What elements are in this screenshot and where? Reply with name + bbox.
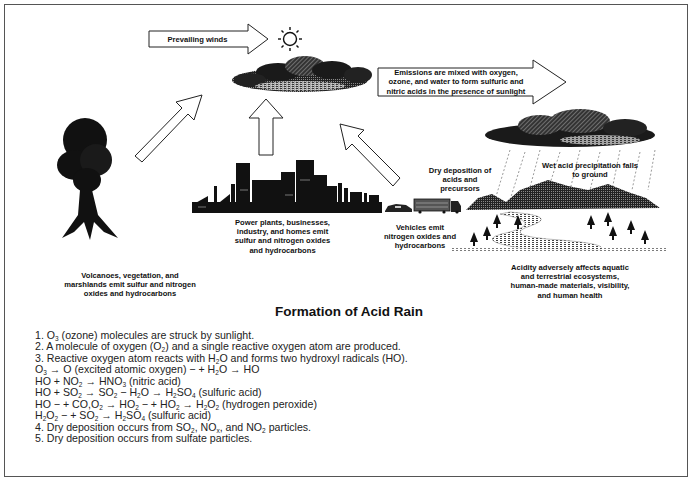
rain-cloud-icon [485, 109, 655, 147]
city-skyline-icon [192, 160, 382, 213]
prevailing-winds-label: Prevailing winds [150, 35, 245, 44]
step-text: O [46, 409, 54, 421]
step-text: → H [180, 398, 204, 410]
power-plants-label: Power plants, businesses, industry, and … [215, 218, 350, 255]
step-text: H [35, 409, 43, 421]
step-text: (sulfuric acid) [196, 386, 262, 398]
step-text: − H [117, 386, 137, 398]
vehicles-label: Vehicles emit nitrogen oxides and hydroc… [375, 223, 465, 251]
step-text: → HNO [82, 375, 122, 387]
step-text: 5. Dry deposition occurs from sulfate pa… [35, 432, 252, 444]
acidity-effects-label: Acidity adversely affects aquatic and te… [485, 263, 655, 300]
step-text: → HO [103, 398, 135, 410]
step-text: (sulfuric acid) [145, 409, 211, 421]
step-text: HO − + CO,O [35, 398, 99, 410]
step-text: O → HO [219, 363, 260, 375]
reaction-steps-list: 1. O3 (ozone) molecules are struck by su… [35, 330, 408, 445]
step-text: O [207, 398, 215, 410]
car-icon [385, 204, 412, 212]
emissions-mixed-label: Emissions are mixed with oxygen, ozone, … [380, 68, 532, 96]
volcano-up-arrow [135, 95, 202, 162]
step-text: (hydrogen peroxide) [219, 398, 317, 410]
step-text: 2. A molecule of oxygen (O [35, 340, 162, 352]
step-text: ) and a single reactive oxygen atom are … [165, 340, 401, 352]
step-text: HO + NO [35, 375, 79, 387]
truck-icon [414, 199, 461, 214]
step-text: (ozone) molecules are struck by sunlight… [59, 329, 254, 341]
step-text: 1. O [35, 329, 55, 341]
step-text: O and forms two hydroxyl radicals (HO). [219, 352, 407, 364]
step-text: O → H [141, 386, 173, 398]
step-text: HO + SO [35, 386, 78, 398]
step-text: SO [126, 409, 141, 421]
volcano-icon [57, 118, 118, 240]
step-text: − + SO [58, 409, 95, 421]
step-item: 5. Dry deposition occurs from sulfate pa… [35, 433, 408, 444]
step-text: (nitric acid) [126, 375, 181, 387]
river-icon [452, 212, 667, 251]
step-text: particles. [266, 421, 311, 433]
step-text: → H [98, 409, 122, 421]
volcanoes-label: Volcanoes, vegetation, and marshlands em… [50, 271, 210, 299]
step-text: − + HO [139, 398, 176, 410]
sun-icon [278, 27, 302, 51]
step-text: 3. Reactive oxygen atom reacts with H [35, 352, 216, 364]
step-text: 4. Dry deposition occurs from SO [35, 421, 191, 433]
step-text: SO [177, 386, 192, 398]
diagram-title: Formation of Acid Rain [0, 304, 698, 319]
wet-precipitation-label: Wet acid precipitation falls to ground [520, 161, 660, 179]
cloud-icon [232, 56, 372, 92]
step-text: , NO [195, 421, 217, 433]
step-text: O [35, 363, 43, 375]
step-text: → O (excited atomic oxygen) − + H [47, 363, 215, 375]
step-text: , and NO [220, 421, 262, 433]
industry-up-arrow [249, 99, 283, 155]
step-text: → SO [82, 386, 114, 398]
dry-deposition-label: Dry deposition of acids and precursors [420, 166, 500, 194]
vehicles-up-arrow [340, 124, 400, 186]
